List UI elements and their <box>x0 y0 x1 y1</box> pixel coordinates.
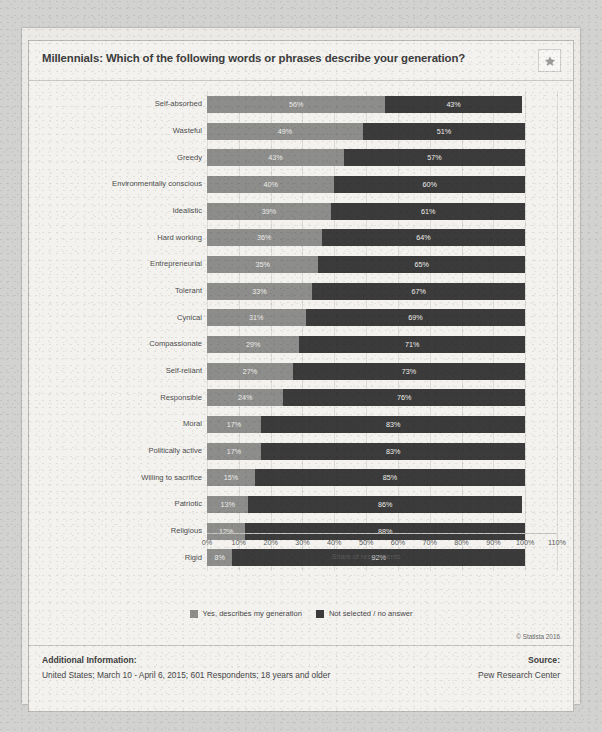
bar-segment-no[interactable]: 71% <box>299 336 525 353</box>
bar-value-label: 36% <box>257 233 271 242</box>
x-tick-label: 100% <box>516 538 534 547</box>
category-label: Hard working <box>42 233 202 242</box>
bar-row[interactable]: 31%69% <box>207 309 557 326</box>
bar-value-label: 17% <box>227 447 241 456</box>
bar-value-label: 17% <box>227 420 241 429</box>
legend-item[interactable]: Yes, describes my generation <box>190 609 302 618</box>
bar-row[interactable]: 13%86% <box>207 496 557 513</box>
bar-segment-yes[interactable]: 39% <box>207 203 331 220</box>
bar-row[interactable]: 35%65% <box>207 256 557 273</box>
bar-segment-yes[interactable]: 35% <box>207 256 318 273</box>
x-axis-line <box>207 533 557 534</box>
bar-value-label: 64% <box>416 233 430 242</box>
bar-value-label: 15% <box>224 473 238 482</box>
bar-row[interactable]: 24%76% <box>207 389 557 406</box>
bar-row[interactable]: 27%73% <box>207 363 557 380</box>
bar-value-label: 40% <box>263 180 277 189</box>
bar-value-label: 39% <box>262 207 276 216</box>
bar-segment-no[interactable]: 86% <box>248 496 522 513</box>
category-label: Willing to sacrifice <box>42 473 202 482</box>
bar-value-label: 13% <box>220 500 234 509</box>
star-icon <box>544 55 556 67</box>
bar-segment-no[interactable]: 69% <box>306 309 526 326</box>
bar-segment-no[interactable]: 73% <box>293 363 525 380</box>
bar-segment-yes[interactable]: 13% <box>207 496 248 513</box>
bar-segment-yes[interactable]: 29% <box>207 336 299 353</box>
category-label: Responsible <box>42 393 202 402</box>
bar-segment-no[interactable]: 43% <box>385 96 522 113</box>
bar-value-label: 43% <box>446 100 460 109</box>
legend-item[interactable]: Not selected / no answer <box>316 609 413 618</box>
bar-value-label: 65% <box>415 260 429 269</box>
bar-segment-yes[interactable]: 49% <box>207 123 363 140</box>
source-heading: Source: <box>478 655 560 665</box>
x-tick-label: 50% <box>359 538 373 547</box>
category-label: Wasteful <box>42 126 202 135</box>
x-tick-label: 10% <box>232 538 246 547</box>
bar-row[interactable]: 49%51% <box>207 123 557 140</box>
bar-value-label: 56% <box>289 100 303 109</box>
favorite-button[interactable] <box>538 49 561 72</box>
category-label: Self-reliant <box>42 366 202 375</box>
bar-segment-no[interactable]: 51% <box>363 123 525 140</box>
bar-segment-yes[interactable]: 15% <box>207 469 255 486</box>
bar-segment-no[interactable]: 83% <box>261 416 525 433</box>
chart-header: Millennials: Which of the following word… <box>29 41 573 81</box>
bar-segment-no[interactable]: 57% <box>344 149 525 166</box>
bar-row[interactable]: 29%71% <box>207 336 557 353</box>
bar-row[interactable]: 17%83% <box>207 416 557 433</box>
x-tick-label: 60% <box>391 538 405 547</box>
bar-segment-yes[interactable]: 33% <box>207 283 312 300</box>
category-label: Greedy <box>42 153 202 162</box>
bar-segment-yes[interactable]: 56% <box>207 96 385 113</box>
bar-row[interactable]: 43%57% <box>207 149 557 166</box>
bar-value-label: 31% <box>249 313 263 322</box>
bar-value-label: 83% <box>386 447 400 456</box>
category-label: Moral <box>42 419 202 428</box>
bar-segment-no[interactable]: 60% <box>334 176 525 193</box>
bar-row[interactable]: 39%61% <box>207 203 557 220</box>
gridline <box>557 91 558 571</box>
source-body: Pew Research Center <box>478 669 560 681</box>
x-tick-label: 80% <box>454 538 468 547</box>
bar-segment-yes[interactable]: 40% <box>207 176 334 193</box>
x-tick-label: 110% <box>548 538 566 547</box>
x-tick-label: 70% <box>423 538 437 547</box>
bar-segment-no[interactable]: 76% <box>283 389 525 406</box>
x-axis: Share of respondents 0%10%20%30%40%50%60… <box>207 533 557 563</box>
bar-segment-yes[interactable]: 17% <box>207 416 261 433</box>
x-tick-label: 0% <box>202 538 212 547</box>
bar-value-label: 51% <box>437 127 451 136</box>
bar-value-label: 29% <box>246 340 260 349</box>
bar-segment-no[interactable]: 64% <box>322 229 526 246</box>
category-label: Compassionate <box>42 339 202 348</box>
legend-label: Yes, describes my generation <box>203 609 302 618</box>
category-label: Tolerant <box>42 286 202 295</box>
bar-value-label: 35% <box>255 260 269 269</box>
category-label: Cynical <box>42 313 202 322</box>
bars-container: 56%43%49%51%43%57%40%60%39%61%36%64%35%6… <box>207 91 557 571</box>
bar-segment-yes[interactable]: 24% <box>207 389 283 406</box>
copyright-text: © Statista 2016 <box>516 633 560 640</box>
bar-segment-yes[interactable]: 27% <box>207 363 293 380</box>
bar-segment-yes[interactable]: 31% <box>207 309 306 326</box>
bar-segment-no[interactable]: 83% <box>261 443 525 460</box>
screenshot-page: Millennials: Which of the following word… <box>0 0 602 732</box>
bar-value-label: 61% <box>421 207 435 216</box>
bar-segment-no[interactable]: 85% <box>255 469 525 486</box>
bar-row[interactable]: 36%64% <box>207 229 557 246</box>
bar-segment-no[interactable]: 67% <box>312 283 525 300</box>
bar-row[interactable]: 33%67% <box>207 283 557 300</box>
bar-row[interactable]: 56%43% <box>207 96 557 113</box>
bar-segment-yes[interactable]: 36% <box>207 229 322 246</box>
bar-segment-no[interactable]: 61% <box>331 203 525 220</box>
bar-segment-yes[interactable]: 43% <box>207 149 344 166</box>
category-label: Rigid <box>42 553 202 562</box>
bar-row[interactable]: 15%85% <box>207 469 557 486</box>
bar-value-label: 67% <box>411 287 425 296</box>
bar-row[interactable]: 40%60% <box>207 176 557 193</box>
bar-segment-no[interactable]: 65% <box>318 256 525 273</box>
bar-row[interactable]: 17%83% <box>207 443 557 460</box>
bar-segment-yes[interactable]: 17% <box>207 443 261 460</box>
legend-swatch <box>190 610 198 618</box>
